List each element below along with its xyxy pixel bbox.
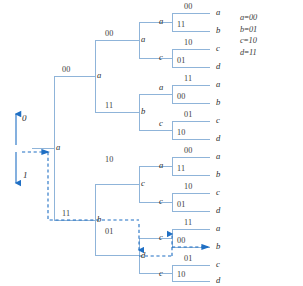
- level3-node-0: a: [159, 17, 163, 26]
- leaf-label-14: c: [216, 260, 220, 269]
- input-0-label: 0: [22, 114, 27, 123]
- level2-bits-0: 00: [105, 30, 113, 38]
- leaf-bits-13: 00: [177, 237, 185, 245]
- leaf-bits-15: 10: [177, 271, 185, 279]
- level3-node-2: a: [159, 83, 163, 92]
- leaf-bits-10: 10: [184, 183, 192, 191]
- root-node-label: a: [56, 143, 60, 152]
- leaf-label-12: a: [216, 224, 220, 233]
- level2-node-3: d: [141, 251, 145, 260]
- leaf-label-7: d: [216, 134, 220, 143]
- leaf-bits-2: 10: [184, 39, 192, 47]
- code-tree-diagram: a 0 1 00 a 11 b 00 a 11 b 10 c 01 d a c …: [0, 0, 303, 286]
- leaf-label-8: a: [216, 152, 220, 161]
- leaf-label-2: c: [216, 44, 220, 53]
- leaf-bits-5: 00: [177, 93, 185, 101]
- legend-row-1: b=01: [240, 24, 257, 36]
- leaf-label-9: b: [216, 170, 220, 179]
- level2-bits-2: 10: [105, 156, 113, 164]
- leaf-label-10: c: [216, 188, 220, 197]
- level2-node-0: a: [141, 35, 145, 44]
- state-legend: a=00 b=01 c=10 d=11: [240, 12, 257, 58]
- leaf-label-13: b: [216, 242, 220, 251]
- legend-code-3: 11: [249, 48, 257, 57]
- leaf-label-4: a: [216, 80, 220, 89]
- level3-node-1: c: [159, 53, 163, 62]
- legend-row-0: a=00: [240, 12, 257, 24]
- leaf-bits-0: 00: [184, 3, 192, 11]
- leaf-bits-1: 11: [177, 21, 185, 29]
- level2-bits-3: 01: [105, 228, 113, 236]
- leaf-label-11: d: [216, 206, 220, 215]
- level3-node-5: c: [159, 197, 163, 206]
- leaf-bits-11: 01: [177, 201, 185, 209]
- level3-node-7: c: [159, 269, 163, 278]
- leaf-label-0: a: [216, 8, 220, 17]
- leaf-label-15: d: [216, 276, 220, 285]
- level2-node-1: b: [141, 107, 145, 116]
- leaf-bits-7: 10: [177, 129, 185, 137]
- level1-node-0: a: [97, 71, 101, 80]
- leaf-bits-14: 01: [184, 255, 192, 263]
- input-1-label: 1: [23, 171, 28, 180]
- leaf-bits-4: 11: [184, 75, 192, 83]
- leaf-label-6: c: [216, 116, 220, 125]
- legend-code-0: 00: [249, 13, 257, 22]
- level1-node-1: b: [97, 215, 101, 224]
- level1-bits-1: 11: [62, 210, 70, 218]
- leaf-bits-3: 01: [177, 57, 185, 65]
- level3-node-4: a: [159, 161, 163, 170]
- leaf-bits-12: 11: [184, 219, 192, 227]
- level2-node-2: c: [141, 179, 145, 188]
- legend-code-2: 10: [248, 36, 256, 45]
- leaf-label-1: b: [216, 26, 220, 35]
- level1-bits-0: 00: [62, 66, 70, 74]
- leaf-bits-8: 00: [184, 147, 192, 155]
- tree-graphics: [0, 0, 303, 286]
- level3-node-3: c: [159, 119, 163, 128]
- legend-row-2: c=10: [240, 35, 257, 47]
- legend-code-1: 01: [249, 25, 257, 34]
- level2-bits-1: 11: [105, 102, 113, 110]
- leaf-bits-6: 01: [184, 111, 192, 119]
- leaf-label-3: d: [216, 62, 220, 71]
- leaf-bits-9: 11: [177, 165, 185, 173]
- legend-row-3: d=11: [240, 47, 257, 59]
- leaf-label-5: b: [216, 98, 220, 107]
- level3-node-6: c: [159, 233, 163, 242]
